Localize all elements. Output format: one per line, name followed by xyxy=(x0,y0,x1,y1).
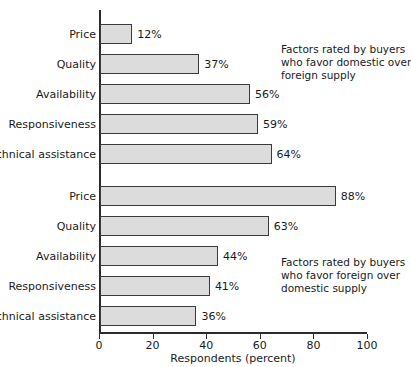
bar-row: Availability56% xyxy=(0,84,386,106)
annotation-line: Factors rated by buyers xyxy=(281,256,387,269)
bar-row: Technical assistance36% xyxy=(0,306,386,328)
bar-value-label: 12% xyxy=(137,28,161,41)
bar-value-label: 56% xyxy=(255,88,279,101)
bar-row: Price88% xyxy=(0,186,386,208)
x-tick-label-0: 0 xyxy=(96,339,103,352)
x-tick-label-80: 80 xyxy=(306,339,320,352)
annotation-line: Factors rated by buyers xyxy=(281,43,387,56)
bar-value-label: 64% xyxy=(277,148,301,161)
bar xyxy=(100,216,269,236)
bar xyxy=(100,246,218,266)
bar xyxy=(100,114,258,134)
bar xyxy=(100,24,132,44)
bar-value-label: 63% xyxy=(274,220,298,233)
annotation-line: who favor foreign over xyxy=(281,269,387,282)
bar-value-label: 44% xyxy=(223,250,247,263)
category-label: Availability xyxy=(36,88,96,101)
bar xyxy=(100,144,272,164)
category-label: Technical assistance xyxy=(0,148,96,161)
bar xyxy=(100,84,250,104)
bar xyxy=(100,306,196,326)
category-label: Quality xyxy=(57,58,96,71)
category-label: Responsiveness xyxy=(8,280,96,293)
bar-row: Quality63% xyxy=(0,216,386,238)
bar xyxy=(100,276,210,296)
bar-value-label: 88% xyxy=(341,190,365,203)
x-axis-title: Respondents (percent) xyxy=(99,352,367,365)
annotation-domestic: Factors rated by buyerswho favor domesti… xyxy=(281,43,387,82)
bar-row: Technical assistance64% xyxy=(0,144,386,166)
annotation-line: foreign supply xyxy=(281,69,387,82)
category-label: Availability xyxy=(36,250,96,263)
annotation-line: domestic supply xyxy=(281,282,387,295)
annotation-line: who favor domestic over xyxy=(281,56,387,69)
category-label: Technical assistance xyxy=(0,310,96,323)
bar-value-label: 37% xyxy=(204,58,228,71)
category-label: Quality xyxy=(57,220,96,233)
x-axis-line xyxy=(99,332,367,334)
bar-value-label: 41% xyxy=(215,280,239,293)
bar xyxy=(100,186,336,206)
x-tick-label-100: 100 xyxy=(357,339,378,352)
category-label: Price xyxy=(69,190,96,203)
category-label: Price xyxy=(69,28,96,41)
bar xyxy=(100,54,199,74)
x-tick-label-40: 40 xyxy=(199,339,213,352)
x-tick-label-60: 60 xyxy=(253,339,267,352)
category-label: Responsiveness xyxy=(8,118,96,131)
bar-row: Responsiveness59% xyxy=(0,114,386,136)
x-tick-label-20: 20 xyxy=(146,339,160,352)
bar-value-label: 36% xyxy=(201,310,225,323)
annotation-foreign: Factors rated by buyerswho favor foreign… xyxy=(281,256,387,295)
bar-value-label: 59% xyxy=(263,118,287,131)
